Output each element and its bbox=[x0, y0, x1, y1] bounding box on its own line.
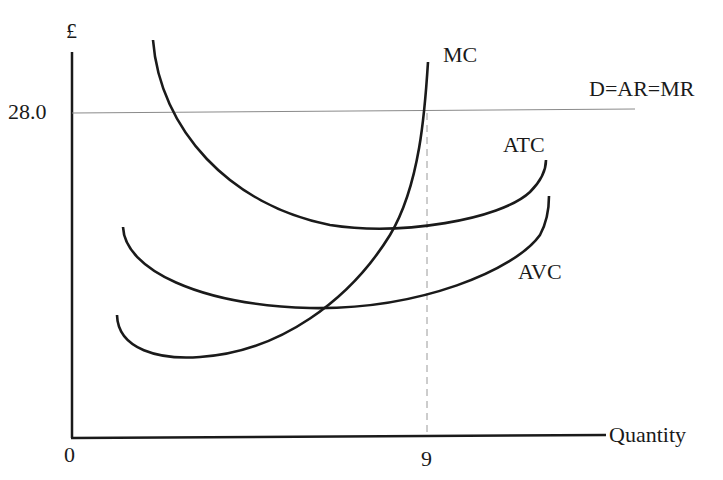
mc-label: MC bbox=[443, 44, 477, 66]
y-axis-label: £ bbox=[66, 20, 77, 42]
x-axis bbox=[71, 435, 606, 438]
origin-label: 0 bbox=[64, 444, 75, 466]
x-axis-label: Quantity bbox=[609, 424, 686, 446]
mc-curve bbox=[117, 62, 428, 358]
atc-label: ATC bbox=[503, 134, 545, 156]
cost-curves-chart bbox=[0, 0, 723, 480]
atc-curve bbox=[153, 40, 546, 229]
price-tick-label: 28.0 bbox=[8, 101, 47, 123]
demand-label: D=AR=MR bbox=[589, 78, 695, 100]
demand-ar-mr-line bbox=[72, 109, 635, 113]
avc-label: AVC bbox=[518, 261, 562, 283]
quantity-tick-label: 9 bbox=[421, 448, 432, 470]
